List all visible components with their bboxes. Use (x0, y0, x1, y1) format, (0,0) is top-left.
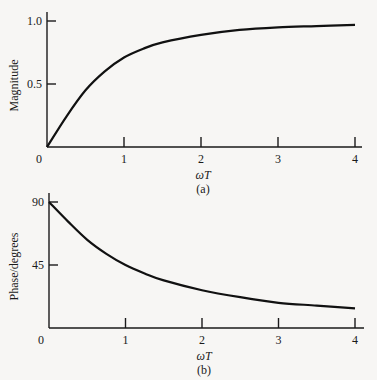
x-tick-label: 1 (123, 333, 129, 347)
magnitude-curve (47, 25, 355, 147)
figure: 123400.51.0MagnitudeωT(a)123404590Phase/… (0, 0, 377, 380)
x-tick-label: 4 (352, 152, 358, 166)
x-tick-label: 2 (199, 333, 205, 347)
x-tick-label: 2 (198, 152, 204, 166)
origin-label: 0 (36, 152, 42, 166)
origin-label: 0 (38, 333, 44, 347)
x-tick-label: 3 (275, 152, 281, 166)
magnitude-y-axis-title: Magnitude (7, 60, 21, 112)
y-tick-label: 0.5 (27, 77, 42, 91)
magnitude-x-axis-title: ωT (195, 168, 211, 182)
y-tick-label: 45 (32, 258, 44, 272)
magnitude-panel-label: (a) (196, 182, 209, 196)
phase-y-axis-title: Phase/degrees (7, 232, 21, 300)
phase-x-axis-title: ωT (196, 349, 212, 363)
y-tick-label: 90 (32, 195, 44, 209)
phase-panel-label: (b) (197, 363, 211, 377)
phase-curve (49, 202, 355, 308)
y-tick-label: 1.0 (27, 14, 42, 28)
x-tick-label: 4 (352, 333, 358, 347)
x-tick-label: 3 (276, 333, 282, 347)
x-tick-label: 1 (121, 152, 127, 166)
